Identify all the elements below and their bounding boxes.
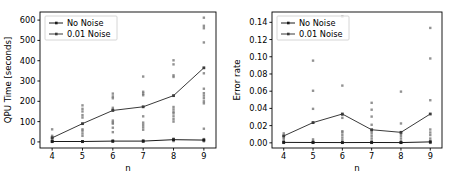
- scatter-point: [370, 135, 372, 137]
- scatter-point: [172, 115, 174, 117]
- scatter-point: [341, 84, 343, 86]
- series-line-no-noise: [284, 142, 431, 143]
- scatter-point: [112, 131, 114, 133]
- scatter-point: [370, 115, 372, 117]
- scatter-point: [203, 27, 205, 29]
- scatter-point: [112, 119, 114, 121]
- scatter-point: [203, 88, 205, 90]
- scatter-point: [112, 92, 114, 94]
- scatter-point: [283, 132, 285, 134]
- qpu-time-plot: 0100200300400500600456789nQPU Time [seco…: [0, 0, 226, 181]
- scatter-point: [341, 130, 343, 132]
- scatter-point: [142, 75, 144, 77]
- x-tick-label: 7: [369, 151, 374, 161]
- series-marker: [282, 141, 285, 144]
- x-tick-label: 5: [80, 151, 85, 161]
- scatter-point: [142, 121, 144, 123]
- y-tick-label: 100: [20, 117, 36, 127]
- scatter-point: [203, 94, 205, 96]
- x-tick-label: 8: [171, 151, 176, 161]
- scatter-point: [203, 128, 205, 130]
- series-marker: [429, 140, 432, 143]
- scatter-point: [400, 90, 402, 92]
- scatter-point: [312, 90, 314, 92]
- series-marker: [429, 113, 432, 116]
- legend-marker: [55, 33, 58, 36]
- scatter-point: [112, 127, 114, 129]
- series-marker: [370, 141, 373, 144]
- series-line-no-noise: [52, 140, 204, 142]
- series-line-noise-001: [52, 68, 204, 138]
- scatter-point: [172, 108, 174, 110]
- scatter-point: [370, 102, 372, 104]
- scatter-point: [172, 120, 174, 122]
- x-tick-label: 7: [141, 151, 146, 161]
- scatter-point: [400, 137, 402, 139]
- x-tick-label: 4: [50, 151, 55, 161]
- legend-marker: [287, 33, 290, 36]
- y-tick-label: 0.06: [249, 86, 267, 96]
- series-marker: [51, 136, 54, 139]
- y-axis-title: Error rate: [232, 59, 242, 100]
- y-tick-label: 0.02: [249, 121, 267, 131]
- chart-panel-qpu-time: 0100200300400500600456789nQPU Time [seco…: [0, 0, 226, 181]
- scatter-point: [112, 107, 114, 109]
- y-tick-label: 0.00: [249, 138, 267, 148]
- scatter-point: [142, 115, 144, 117]
- x-tick-label: 6: [110, 151, 115, 161]
- y-tick-label: 0.12: [249, 35, 267, 45]
- scatter-point: [341, 139, 343, 141]
- scatter-point: [203, 72, 205, 74]
- figure-container: 0100200300400500600456789nQPU Time [seco…: [0, 0, 452, 181]
- scatter-point: [341, 134, 343, 136]
- legend-label-noise-001: 0.01 Noise: [67, 29, 111, 39]
- error-rate-plot: 0.000.020.040.060.080.100.120.14456789nE…: [226, 0, 452, 181]
- series-marker: [370, 128, 373, 131]
- scatter-point: [370, 108, 372, 110]
- scatter-point: [429, 137, 431, 139]
- x-tick-label: 5: [310, 151, 315, 161]
- scatter-point: [172, 111, 174, 113]
- y-tick-label: 0.08: [249, 69, 267, 79]
- y-tick-label: 300: [20, 76, 36, 86]
- y-tick-label: 200: [20, 96, 36, 106]
- scatter-point: [203, 25, 205, 27]
- legend-marker: [55, 22, 58, 25]
- scatter-point: [203, 100, 205, 102]
- y-tick-label: 600: [20, 15, 36, 25]
- scatter-point: [81, 104, 83, 106]
- scatter-point: [203, 92, 205, 94]
- series-marker: [202, 139, 205, 142]
- series-marker: [312, 141, 315, 144]
- scatter-point: [400, 122, 402, 124]
- scatter-point: [81, 114, 83, 116]
- series-marker: [111, 109, 114, 112]
- scatter-point: [172, 118, 174, 120]
- scatter-point: [429, 131, 431, 133]
- series-marker: [111, 140, 114, 143]
- scatter-point: [112, 95, 114, 97]
- y-tick-label: 0.04: [249, 103, 267, 113]
- scatter-point: [429, 128, 431, 130]
- x-axis-title: n: [354, 163, 359, 173]
- series-marker: [341, 141, 344, 144]
- y-tick-label: 0: [30, 137, 35, 147]
- y-tick-label: 0.10: [249, 52, 267, 62]
- scatter-point: [429, 57, 431, 59]
- scatter-point: [142, 126, 144, 128]
- scatter-point: [81, 128, 83, 130]
- legend-label-noise-001: 0.01 Noise: [299, 29, 343, 39]
- scatter-point: [51, 128, 53, 130]
- y-tick-label: 0.14: [249, 17, 267, 27]
- scatter-point: [341, 117, 343, 119]
- scatter-point: [370, 132, 372, 134]
- scatter-point: [203, 16, 205, 18]
- y-tick-label: 500: [20, 35, 36, 45]
- scatter-point: [142, 129, 144, 131]
- scatter-point: [429, 99, 431, 101]
- x-tick-label: 8: [398, 151, 403, 161]
- scatter-point: [429, 134, 431, 136]
- scatter-point: [172, 63, 174, 65]
- chart-panel-error-rate: 0.000.020.040.060.080.100.120.14456789nE…: [226, 0, 452, 181]
- series-marker: [172, 94, 175, 97]
